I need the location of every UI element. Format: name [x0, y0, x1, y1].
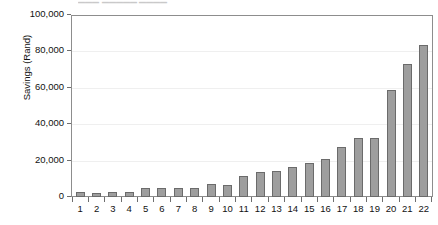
- x-axis-tick: [301, 197, 302, 202]
- bar: [370, 138, 379, 197]
- x-axis-tick: [153, 197, 154, 202]
- x-axis-tick-label: 16: [317, 203, 333, 217]
- bar: [337, 147, 346, 197]
- x-axis-tick-label: 17: [334, 203, 350, 217]
- clipped-caption-sliver: ▁▁▁ ▁▁▁▁▁ ▁▁▁▁: [78, 0, 308, 5]
- x-axis-tick-label: 20: [383, 203, 399, 217]
- bar: [403, 64, 412, 197]
- x-axis-ticks: [72, 197, 432, 202]
- x-axis-tick-label: 19: [366, 203, 382, 217]
- y-axis-tick-label: 20,000: [0, 155, 64, 165]
- x-tick-slot: [236, 197, 252, 202]
- bar: [288, 167, 297, 197]
- x-axis-tick-label: 2: [88, 203, 104, 217]
- x-axis-tick-label: 22: [416, 203, 432, 217]
- x-axis-tick: [251, 197, 252, 202]
- x-axis-tick: [186, 197, 187, 202]
- x-axis-tick-label: 13: [268, 203, 284, 217]
- x-axis-tick-label: 4: [121, 203, 137, 217]
- x-axis-tick-label: 7: [170, 203, 186, 217]
- x-tick-slot: [187, 197, 203, 202]
- x-tick-slot: [301, 197, 317, 202]
- bar: [354, 138, 363, 197]
- bar-chart-figure: ▁▁▁ ▁▁▁▁▁ ▁▁▁▁ Savings (Rand) 020,00040,…: [0, 0, 438, 225]
- x-axis-tick: [431, 197, 432, 202]
- bar-series: [72, 16, 432, 197]
- bar: [305, 163, 314, 197]
- x-tick-slot: [252, 197, 268, 202]
- x-axis-tick-label: 21: [399, 203, 415, 217]
- y-axis-tick-label: 80,000: [0, 45, 64, 55]
- x-axis-tick: [382, 197, 383, 202]
- x-axis-tick-label: 12: [252, 203, 268, 217]
- bar-slot: [350, 16, 366, 197]
- x-axis-tick: [317, 197, 318, 202]
- bar-slot: [383, 16, 399, 197]
- bar-slot: [268, 16, 284, 197]
- x-tick-slot: [72, 197, 88, 202]
- bar-slot: [252, 16, 268, 197]
- bar-slot: [301, 16, 317, 197]
- bar-slot: [137, 16, 153, 197]
- bar-slot: [170, 16, 186, 197]
- bar-slot: [366, 16, 382, 197]
- bar-slot: [236, 16, 252, 197]
- bar: [207, 184, 216, 197]
- x-axis-tick-label: 14: [285, 203, 301, 217]
- x-axis-tick: [88, 197, 89, 202]
- x-axis-tick: [268, 197, 269, 202]
- bar-slot: [334, 16, 350, 197]
- clipped-caption-text: ▁▁▁ ▁▁▁▁▁ ▁▁▁▁: [78, 0, 308, 3]
- x-axis-tick: [219, 197, 220, 202]
- bar-slot: [154, 16, 170, 197]
- x-axis-tick-label: 18: [350, 203, 366, 217]
- x-tick-slot: [366, 197, 382, 202]
- x-axis-tick: [170, 197, 171, 202]
- x-axis-tick-label: 9: [203, 203, 219, 217]
- x-axis-tick: [399, 197, 400, 202]
- x-axis-tick-label: 10: [219, 203, 235, 217]
- bar-slot: [219, 16, 235, 197]
- x-axis-tick: [121, 197, 122, 202]
- x-tick-slot: [268, 197, 284, 202]
- bar: [272, 171, 281, 197]
- x-axis-tick: [104, 197, 105, 202]
- x-axis-tick-label: 11: [236, 203, 252, 217]
- x-axis-tick: [202, 197, 203, 202]
- x-tick-slot: [203, 197, 219, 202]
- bar-slot: [416, 16, 432, 197]
- x-tick-slot: [170, 197, 186, 202]
- y-axis-tick-label: 40,000: [0, 118, 64, 128]
- x-tick-slot: [105, 197, 121, 202]
- bar: [141, 188, 150, 197]
- bar: [321, 159, 330, 197]
- x-axis-tick-label: 15: [301, 203, 317, 217]
- y-axis-title: Savings (Rand): [21, 0, 32, 138]
- bar: [174, 188, 183, 197]
- bar-slot: [285, 16, 301, 197]
- x-axis-tick-labels: 12345678910111213141516171819202122: [72, 203, 432, 217]
- bar: [387, 90, 396, 197]
- x-axis-tick: [366, 197, 367, 202]
- bar-slot: [399, 16, 415, 197]
- bar-slot: [72, 16, 88, 197]
- bar-slot: [317, 16, 333, 197]
- x-axis-tick: [284, 197, 285, 202]
- x-tick-slot: [334, 197, 350, 202]
- x-axis-tick: [72, 197, 73, 202]
- bar: [256, 172, 265, 197]
- bar-slot: [88, 16, 104, 197]
- x-axis-tick-label: 3: [105, 203, 121, 217]
- bar-slot: [105, 16, 121, 197]
- x-axis-tick: [235, 197, 236, 202]
- x-tick-slot: [383, 197, 399, 202]
- y-axis-tick-label: 60,000: [0, 82, 64, 92]
- x-tick-slot: [399, 197, 415, 202]
- bar: [157, 188, 166, 197]
- x-axis-tick-label: 6: [154, 203, 170, 217]
- bar: [239, 176, 248, 197]
- x-axis-tick-label: 5: [137, 203, 153, 217]
- x-tick-slot: [121, 197, 137, 202]
- x-tick-slot: [137, 197, 153, 202]
- x-axis-tick-label: 1: [72, 203, 88, 217]
